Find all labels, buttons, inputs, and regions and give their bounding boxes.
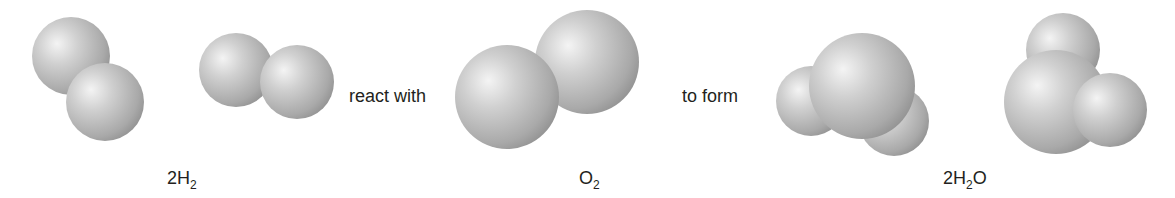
formula-label-o2: O2 [579,168,600,188]
hydrogen-atom-sphere [66,63,144,141]
hydrogen-molecule-1 [32,17,144,141]
formula-label-2h2: 2H2 [167,168,197,188]
water-molecule-2 [1004,13,1147,154]
formula-label-2h2o: 2H2O [943,168,987,188]
connector-to-form: to form [682,86,738,106]
water-molecule-1 [776,33,929,156]
hydrogen-molecule-2 [199,33,334,119]
connector-react-with: react with [349,86,426,106]
hydrogen-atom-sphere [199,33,273,107]
oxygen-molecule [455,10,639,149]
reaction-diagram: 2H2 react with O2 to form 2H2O [0,0,1175,198]
hydrogen-atom-sphere [1073,73,1147,147]
oxygen-atom-sphere [809,33,915,139]
hydrogen-atom-sphere [260,45,334,119]
oxygen-atom-sphere [455,45,559,149]
